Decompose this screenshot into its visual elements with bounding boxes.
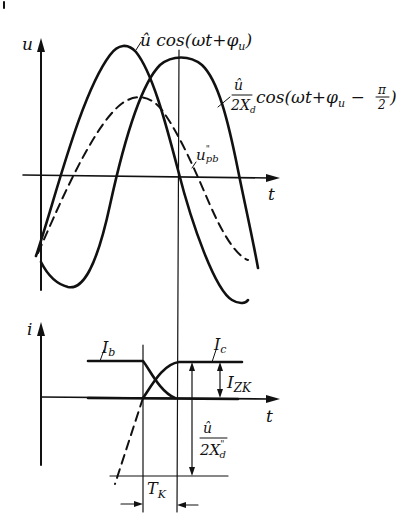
current-baseline xyxy=(88,398,238,399)
label-ib: Ib xyxy=(101,338,115,359)
svg-text:2Xd: 2Xd xyxy=(230,97,256,115)
izk-arrow-up-icon xyxy=(217,362,223,371)
i-axis-label: i xyxy=(27,319,32,339)
dim-arrow-up-icon xyxy=(189,362,195,371)
u-axis-arrow-icon xyxy=(37,38,45,52)
svg-text:2X"d: 2X"d xyxy=(199,439,226,460)
dim-arrow-down-icon xyxy=(189,467,195,476)
svg-text:û: û xyxy=(234,77,243,93)
i-axis-arrow-icon xyxy=(37,322,45,336)
curve-recovery-voltage xyxy=(38,97,248,260)
commutation-waveform-diagram: u t û cos(ωt+φu) û 2Xd cos(ωt+φu − π xyxy=(0,0,399,530)
label-reactance-voltage: û 2Xd cos(ωt+φu − π 2 ) xyxy=(230,77,397,115)
svg-text:π: π xyxy=(377,83,387,97)
svg-text:): ) xyxy=(389,87,397,107)
label-izk: IZK xyxy=(226,372,252,395)
t-axis-upper-arrow-icon xyxy=(266,174,280,182)
u-axis-label: u xyxy=(22,34,33,54)
label-ic: Ic xyxy=(213,335,227,356)
curve-reactance-voltage xyxy=(41,58,258,288)
current-ib xyxy=(88,361,175,398)
svg-text:û: û xyxy=(203,420,212,436)
t-axis-lower-label: t xyxy=(266,406,273,426)
svg-text:2: 2 xyxy=(377,98,386,112)
dashed-extrapolation xyxy=(115,398,143,484)
label-peak-current: û 2X"d xyxy=(199,420,227,460)
lower-plot: i t Ib Ic IZK û 2X xyxy=(27,319,280,512)
curve-source-voltage xyxy=(36,46,248,303)
label-tk: TK xyxy=(147,479,167,501)
tk-arrow-right-icon xyxy=(134,501,143,507)
tk-arrow-left-icon xyxy=(177,502,186,508)
t-axis-upper-label: t xyxy=(268,184,275,204)
upper-plot: u t û cos(ωt+φu) û 2Xd cos(ωt+φu − π xyxy=(22,30,397,512)
reference-line xyxy=(177,50,179,512)
label-source-voltage: û cos(ωt+φu) xyxy=(140,30,252,53)
izk-arrow-down-icon xyxy=(217,389,223,398)
svg-text:cos(ωt+φu −: cos(ωt+φu − xyxy=(256,87,365,110)
t-axis-lower-arrow-icon xyxy=(266,395,280,403)
label-recovery-voltage: u"pb xyxy=(196,144,219,164)
